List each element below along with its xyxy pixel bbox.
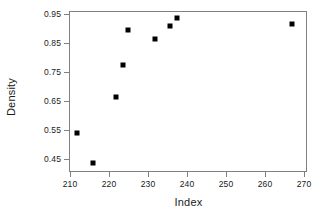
x-axis-ticklabel: 270 xyxy=(297,179,311,189)
data-point xyxy=(113,95,118,100)
data-point xyxy=(90,160,95,165)
x-axis-tick xyxy=(70,172,71,177)
x-axis-tick xyxy=(304,172,305,177)
y-axis-ticklabel: 0.65 xyxy=(44,96,61,106)
data-point xyxy=(120,63,125,68)
y-axis-ticklabel: 0.45 xyxy=(44,154,61,164)
x-axis-title-text: Index xyxy=(175,196,203,208)
plot-frame xyxy=(69,11,307,172)
scatter-plot-figure: 0.450.550.650.750.850.95 210220230240250… xyxy=(0,0,323,219)
x-axis-tick xyxy=(148,172,149,177)
y-axis-ticklabel: 0.85 xyxy=(44,38,61,48)
data-point xyxy=(290,21,295,26)
y-axis-ticklabel: 0.55 xyxy=(44,125,61,135)
y-axis-title: Density xyxy=(5,67,17,127)
x-axis-ticklabel: 260 xyxy=(258,179,272,189)
x-axis-ticklabel: 210 xyxy=(63,179,77,189)
x-axis-ticklabel: 230 xyxy=(141,179,155,189)
data-point xyxy=(152,37,157,42)
data-point xyxy=(74,131,79,136)
x-axis-ticklabel: 240 xyxy=(180,179,194,189)
y-axis-ticklabel: 0.75 xyxy=(44,67,61,77)
x-axis-title: Index xyxy=(0,196,323,208)
plot-area xyxy=(70,12,306,171)
data-point xyxy=(175,15,180,20)
x-axis-tick xyxy=(187,172,188,177)
data-point xyxy=(168,23,173,28)
x-axis-tick xyxy=(109,172,110,177)
y-axis-ticklabel: 0.95 xyxy=(44,9,61,19)
x-axis-ticklabel: 220 xyxy=(102,179,116,189)
x-axis-tick xyxy=(226,172,227,177)
x-axis-tick xyxy=(265,172,266,177)
x-axis-ticklabel: 250 xyxy=(219,179,233,189)
data-point xyxy=(125,27,130,32)
